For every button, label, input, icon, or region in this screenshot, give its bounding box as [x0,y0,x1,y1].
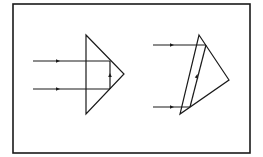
arrow-right-icon [170,105,174,109]
arrow-up-icon [108,73,112,77]
right-prism [180,35,229,114]
arrow-right-icon [170,43,174,47]
diagram-frame [13,4,250,153]
left-prism-group [33,35,124,114]
arrow-right-icon [56,59,60,63]
prism-diagram [0,0,263,157]
left-prism [86,35,124,114]
right-prism-group [153,35,229,114]
arrow-right-icon [56,87,60,91]
